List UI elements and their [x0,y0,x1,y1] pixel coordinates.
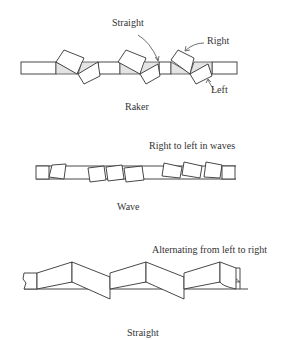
label-left: Left [211,84,228,95]
caption-wave: Wave [117,201,140,212]
label-right: Right [207,35,229,46]
saw-tooth-set-diagram [0,0,296,340]
arrow-right [186,43,204,50]
raker-blade [21,50,237,84]
caption-straight: Straight [127,327,159,338]
wave-blade [36,162,236,182]
label-wave-description: Right to left in waves [149,140,235,151]
label-straight: Straight [112,17,144,28]
caption-raker: Raker [125,101,149,112]
straight-blade [23,262,248,299]
label-straight-description: Alternating from left to right [152,244,267,255]
